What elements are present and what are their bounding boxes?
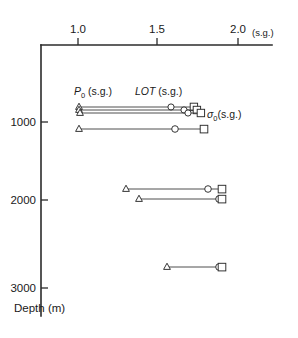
- sigma0-square-marker: [218, 195, 226, 203]
- lot-symbol: LOT: [135, 85, 157, 97]
- x-tick-label-1.0: 1.0: [70, 23, 86, 35]
- p0-triangle-marker: [76, 125, 83, 131]
- sigma0-unit: (s.g.): [218, 108, 242, 120]
- lot-unit: (s.g.): [155, 85, 182, 97]
- p0-triangle-marker: [123, 185, 130, 191]
- data-row: [76, 103, 198, 110]
- data-row: [136, 195, 226, 203]
- data-row: [164, 263, 226, 271]
- x-axis-unit-label: (s.g.): [252, 27, 274, 38]
- y-tick-group: [41, 122, 48, 288]
- x-tick-group: [78, 38, 238, 45]
- chart-figure: 1.0 1.5 2.0 (s.g.) 1000 2000 3000 Depth …: [0, 0, 298, 338]
- sigma0-series-label: σ0(s.g.): [207, 108, 241, 123]
- lot-circle-marker: [185, 110, 191, 116]
- annotation-group: P0 (s.g.) LOT (s.g.) σ0(s.g.): [74, 85, 241, 123]
- lot-series-label: LOT (s.g.): [135, 85, 182, 97]
- p0-triangle-marker: [164, 263, 171, 269]
- lot-circle-marker: [205, 186, 212, 193]
- y-tick-label-2000: 2000: [10, 194, 36, 206]
- data-row: [123, 185, 226, 193]
- sigma0-square-marker: [218, 263, 226, 271]
- lot-circle-marker: [168, 104, 174, 110]
- sigma0-square-marker: [218, 185, 226, 193]
- x-tick-label-group: 1.0 1.5 2.0 (s.g.): [70, 23, 274, 38]
- sigma0-square-marker: [200, 125, 208, 133]
- lot-circle-marker: [172, 126, 179, 133]
- x-tick-label-1.5: 1.5: [149, 23, 165, 35]
- p0-symbol: P: [74, 85, 81, 97]
- p0-series-label: P0 (s.g.): [74, 85, 112, 100]
- y-axis-title: Depth (m): [14, 302, 65, 314]
- p0-unit: (s.g.): [85, 85, 112, 97]
- y-tick-label-1000: 1000: [10, 116, 36, 128]
- depth-vs-sg-scatter-chart: 1.0 1.5 2.0 (s.g.) 1000 2000 3000 Depth …: [0, 0, 298, 338]
- x-tick-label-2.0: 2.0: [230, 23, 246, 35]
- p0-triangle-marker: [136, 195, 143, 201]
- data-row: [76, 125, 208, 133]
- y-tick-label-3000: 3000: [10, 282, 36, 294]
- sigma0-square-marker: [197, 109, 204, 116]
- y-tick-label-group: 1000 2000 3000: [10, 116, 36, 294]
